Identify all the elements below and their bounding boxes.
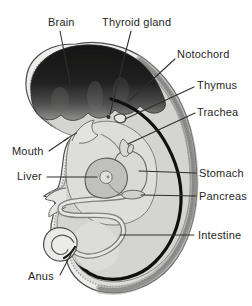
label-thymus: Thymus — [197, 79, 237, 91]
label-liver: Liver — [17, 170, 42, 182]
thymus-organ — [114, 114, 126, 123]
tail-curl — [44, 228, 78, 262]
label-intestine: Intestine — [198, 229, 241, 241]
embryo-diagram: Brain Thyroid gland Notochord Thymus Tra… — [0, 0, 252, 306]
label-trachea: Trachea — [197, 106, 238, 118]
label-brain: Brain — [48, 16, 75, 28]
liver-organ — [85, 158, 127, 198]
label-thyroid-gland: Thyroid gland — [102, 16, 171, 28]
label-anus: Anus — [28, 270, 54, 282]
label-pancreas: Pancreas — [199, 190, 247, 202]
label-notochord: Notochord — [177, 48, 230, 60]
label-mouth: Mouth — [12, 145, 44, 157]
label-stomach: Stomach — [199, 167, 244, 179]
